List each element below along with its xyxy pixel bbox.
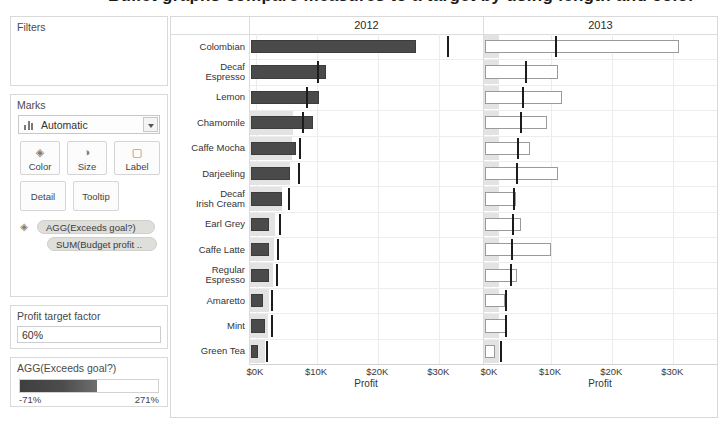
profit-bar[interactable] — [251, 167, 290, 180]
gridline-horizontal — [250, 262, 483, 263]
gridline-horizontal — [484, 161, 717, 162]
filters-card: Filters — [10, 16, 168, 86]
profit-bar[interactable] — [251, 218, 269, 231]
color-palette-icon: ◈ — [18, 221, 30, 232]
gridline-horizontal — [250, 85, 483, 86]
parameter-card: Profit target factor 60% — [10, 305, 168, 349]
marks-button-row-1: ◈ Color ◑ Size ▢ Label — [11, 134, 167, 175]
bullet-chart: 2012 2013 ColombianDecaf EspressoLemonCh… — [170, 16, 718, 418]
target-reference-line — [525, 61, 527, 82]
profit-bar[interactable] — [251, 294, 263, 307]
gridline-horizontal — [484, 339, 717, 340]
marks-pill-area: ◈ AGG(Exceeds goal?) SUM(Budget profit .… — [11, 211, 167, 237]
target-reference-line — [510, 264, 512, 285]
row-label: Earl Grey — [205, 219, 245, 229]
gridline-horizontal — [484, 237, 717, 238]
profit-bar[interactable] — [485, 243, 551, 256]
panel-header-2012: 2012 — [249, 17, 483, 35]
x-axis-tick-label: $20K — [600, 366, 622, 377]
panel-2013[interactable] — [483, 34, 717, 364]
chevron-down-icon[interactable] — [143, 117, 158, 132]
target-reference-line — [271, 290, 273, 311]
profit-bar[interactable] — [485, 65, 558, 78]
marks-button-row-2: Detail Tooltip — [11, 175, 167, 211]
x-axis-tick-label: $0K — [247, 366, 264, 377]
legend-header: AGG(Exceeds goal?) — [11, 358, 167, 377]
panel-2012[interactable] — [249, 34, 483, 364]
gridline-horizontal — [484, 288, 717, 289]
profit-bar[interactable] — [251, 345, 258, 358]
target-reference-line — [555, 36, 557, 57]
profit-bar[interactable] — [485, 294, 505, 307]
pill-budget-profit[interactable]: SUM(Budget profit .. — [47, 237, 157, 251]
mark-type-select[interactable]: Automatic — [18, 115, 160, 134]
x-axis-tick-label: $0K — [481, 366, 498, 377]
profit-bar[interactable] — [485, 345, 495, 358]
profit-target-factor-input[interactable]: 60% — [17, 326, 161, 343]
profit-bar[interactable] — [251, 40, 416, 53]
target-reference-line — [276, 264, 278, 285]
row-label-column: ColombianDecaf EspressoLemonChamomileCaf… — [171, 34, 249, 364]
profit-bar[interactable] — [251, 243, 269, 256]
size-button[interactable]: ◑ Size — [67, 141, 107, 175]
target-reference-line — [522, 87, 524, 108]
profit-bar[interactable] — [251, 142, 296, 155]
gridline-horizontal — [484, 110, 717, 111]
gridline-horizontal — [250, 186, 483, 187]
profit-bar[interactable] — [251, 319, 265, 332]
profit-bar[interactable] — [251, 65, 326, 78]
x-axis-tick-label: $30K — [661, 366, 683, 377]
x-axis-tick-label: $30K — [427, 366, 449, 377]
row-label: Amaretto — [206, 296, 245, 306]
color-legend-card: AGG(Exceeds goal?) -71% 271% — [10, 357, 168, 407]
panel-header-row: 2012 2013 — [171, 17, 717, 34]
tooltip-button[interactable]: Tooltip — [73, 181, 119, 211]
tooltip-button-label: Tooltip — [74, 191, 118, 202]
target-reference-line — [513, 188, 515, 209]
profit-bar[interactable] — [251, 192, 282, 205]
target-reference-line — [516, 163, 518, 184]
filters-shelf[interactable] — [11, 36, 167, 82]
detail-button[interactable]: Detail — [20, 181, 66, 211]
x-axis-title-2013: Profit — [483, 378, 717, 389]
gridline-horizontal — [250, 237, 483, 238]
target-reference-line — [266, 341, 268, 362]
gridline-vertical — [551, 34, 552, 364]
gridline-horizontal — [250, 339, 483, 340]
worksheet-title-clipped: Bullet graphs compare measures to a targ… — [0, 0, 728, 14]
profit-bar[interactable] — [485, 192, 516, 205]
profit-bar[interactable] — [485, 116, 547, 129]
profit-bar[interactable] — [485, 40, 679, 53]
label-button[interactable]: ▢ Label — [114, 141, 160, 175]
pill-exceeds-goal[interactable]: AGG(Exceeds goal?) — [37, 220, 155, 234]
row-label: Chamomile — [197, 118, 245, 128]
color-button[interactable]: ◈ Color — [20, 141, 60, 175]
label-button-label: Label — [115, 161, 159, 172]
gridline-vertical — [612, 34, 613, 364]
profit-bar[interactable] — [485, 218, 521, 231]
legend-scale: -71% 271% — [11, 393, 167, 405]
target-reference-line — [302, 112, 304, 133]
target-reference-line — [505, 290, 507, 311]
gridline-horizontal — [484, 262, 717, 263]
x-axis-area: Profit $0K$10K$20K$30K Profit $0K$10K$20… — [171, 364, 717, 396]
target-reference-line — [505, 315, 507, 336]
profit-bar[interactable] — [485, 167, 558, 180]
profit-bar[interactable] — [485, 142, 530, 155]
profit-bar[interactable] — [251, 269, 269, 282]
row-label: Mint — [227, 321, 245, 331]
size-icon: ◑ — [68, 145, 106, 159]
legend-gradient[interactable] — [19, 379, 159, 393]
gridline-vertical — [439, 34, 440, 364]
target-reference-line — [299, 138, 301, 159]
legend-min-label: -71% — [19, 394, 41, 405]
profit-bar[interactable] — [251, 91, 319, 104]
parameter-header: Profit target factor — [11, 306, 167, 325]
legend-max-label: 271% — [135, 394, 159, 405]
row-label: Caffe Mocha — [191, 143, 245, 153]
tableau-worksheet: Bullet graphs compare measures to a targ… — [0, 0, 728, 433]
left-sidebar: Filters Marks Automatic ◈ Color ◑ Size — [10, 16, 168, 418]
gridline-vertical — [673, 34, 674, 364]
target-reference-line — [298, 163, 300, 184]
row-label: Colombian — [200, 42, 245, 52]
